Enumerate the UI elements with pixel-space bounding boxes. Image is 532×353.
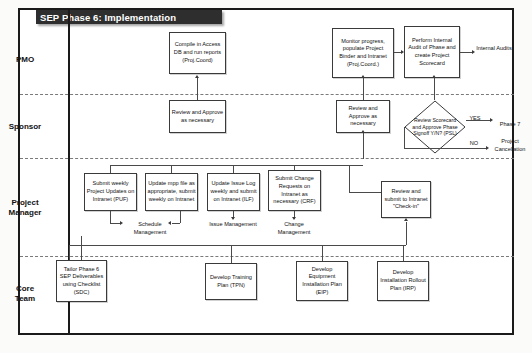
label-change-management: Change Management (270, 221, 318, 236)
conn-coreteam-bus-h (69, 245, 406, 246)
node-review-approve-right[interactable]: Review and Approve as necessary (336, 100, 390, 133)
conn-checkin-up (363, 133, 364, 159)
conn-bus-to-rollout (403, 245, 404, 261)
node-submit-change-requests[interactable]: Submit Change Requests on Intranet as ne… (268, 170, 321, 211)
arrow-mpp-to-sched (168, 221, 171, 225)
arrow-no-to-cancellation (486, 146, 489, 150)
node-monitor-progress[interactable]: Monitor progress, populate Project Binde… (332, 28, 394, 78)
conn-decision-to-audit (434, 78, 435, 100)
conn-bus-to-issue-log (233, 165, 234, 173)
label-internal-audits: Internal Audits (476, 45, 512, 53)
node-tailor-sep-deliverables[interactable]: Tailor Phase 6 SEP Deliverables using Ch… (56, 260, 107, 302)
conn-bus-to-tailor (69, 245, 70, 260)
node-submit-weekly-updates[interactable]: Submit weekly Project Updates on Intrane… (84, 173, 137, 211)
conn-pm-to-tailor (81, 236, 82, 260)
arrow-monitor-to-audit (401, 50, 404, 54)
arrow-yes-to-phase7 (490, 118, 493, 122)
conn-submitweekly-to-sched (110, 223, 120, 224)
conn-mpp-to-sched (172, 223, 180, 224)
conn-bus-to-change-req (294, 165, 295, 170)
conn-bus-to-submit-weekly (110, 165, 111, 173)
lane-divider-pm-coreteam (20, 256, 514, 257)
arrow-decision-to-audit (432, 75, 436, 78)
conn-mpp-down (180, 211, 181, 223)
node-update-mpp-file[interactable]: Update mpp file as appropriate, submit w… (145, 173, 198, 211)
arrow-changereq-to-changemgmt (292, 217, 296, 220)
conn-coreteam-to-checkin (406, 222, 407, 245)
label-no: NO (466, 140, 482, 148)
node-decision-review-scorecard[interactable]: Review Scorecard and Approve Phase Signo… (404, 100, 466, 154)
conn-audit-to-internal-audits (460, 52, 472, 53)
label-project-cancellation: Project Cancellation (489, 138, 531, 153)
node-develop-equipment-plan[interactable]: Develop Equipment Installation Plan (EIP… (296, 261, 348, 301)
conn-bus-to-training (231, 245, 232, 263)
lane-label-sponsor-text: Sponsor (9, 122, 41, 132)
node-update-issue-log[interactable]: Update Issue Log weekly and submit on In… (207, 173, 260, 211)
label-issue-management: Issue Management (209, 221, 257, 229)
conn-yes-to-phase7 (466, 120, 490, 121)
arrow-coreteam-to-checkin (404, 218, 408, 221)
decision-label: Review Scorecard and Approve Phase Signo… (404, 100, 466, 154)
arrow-submitweekly-to-sched (120, 221, 123, 225)
lane-label-project-manager-text: Project Manager (9, 198, 42, 218)
conn-reviewleft-to-compile (197, 78, 198, 100)
node-compile-in-access-db[interactable]: Compile in Access DB and run reports (Pr… (169, 32, 226, 74)
conn-submitweekly-down (110, 211, 111, 223)
conn-pm-bus-h (110, 165, 363, 166)
arrow-issuelog-to-issuemgmt (231, 217, 235, 220)
lane-divider-sponsor-pm (20, 158, 514, 159)
conn-no-right (404, 148, 486, 149)
conn-reviewright-to-monitor (363, 78, 364, 100)
node-develop-rollout-plan[interactable]: Develop Installation Rollout Plan (IRP) (377, 261, 429, 301)
lane-label-sponsor: Sponsor (0, 96, 50, 158)
lane-label-project-manager: Project Manager (0, 160, 50, 256)
arrow-reviewleft-to-compile (195, 75, 199, 78)
lane-label-pmo-text: PMO (16, 55, 34, 65)
lane-label-core-team: Core Team (0, 258, 50, 330)
lane-label-pmo: PMO (0, 26, 50, 94)
node-develop-training-plan[interactable]: Develop Training Plan (TPN) (205, 263, 257, 300)
arrow-checkin-up (361, 130, 365, 133)
node-review-approve-left[interactable]: Review and Approve as necessary (169, 100, 226, 133)
node-review-submit-checkin[interactable]: Review and submit to Intranet "Check-in" (381, 181, 431, 218)
label-phase-7: Phase 7 (494, 121, 526, 129)
node-perform-internal-audit[interactable]: Perform Internal Audit of Phase and crea… (404, 26, 460, 78)
lane-label-core-team-text: Core Team (15, 284, 35, 304)
lane-divider-pmo-sponsor (20, 94, 514, 95)
arrow-audit-to-internal-audits (472, 50, 475, 54)
conn-bus-to-checkin-v (349, 165, 350, 192)
conn-bus-to-checkin (349, 192, 381, 193)
arrow-reviewright-to-monitor (361, 75, 365, 78)
conn-monitor-to-audit (394, 52, 401, 53)
label-schedule-management: Schedule Management (126, 221, 174, 236)
conn-bus-to-equipment (322, 245, 323, 261)
swimlane-diagram-page: SEP Phase 6: Implementation PMO Sponsor … (0, 0, 532, 353)
label-yes: YES (467, 115, 483, 123)
conn-bus-to-update-mpp (171, 165, 172, 173)
conn-no-down (404, 127, 405, 148)
